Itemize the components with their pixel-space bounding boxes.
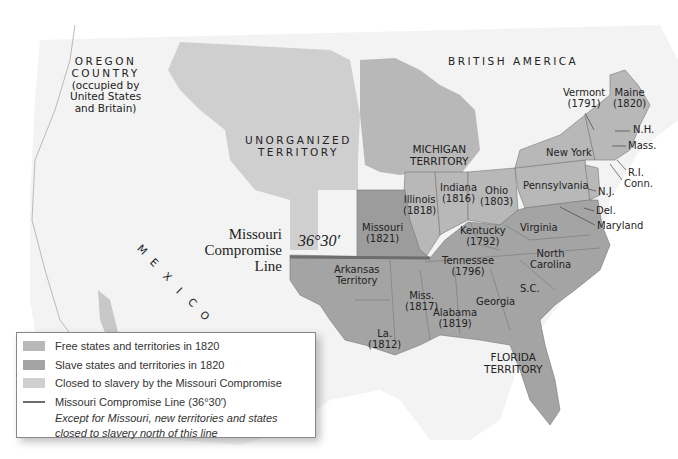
legend-label: Free states and territories in 1820 [55,340,219,352]
line-swatch-icon [23,401,45,403]
legend-note-line: closed to slavery north of this line [55,426,315,441]
map-legend: Free states and territories in 1820 Slav… [16,332,316,438]
swatch-free-icon [23,341,45,351]
legend-item-free: Free states and territories in 1820 [17,337,315,356]
swatch-slave-icon [23,360,45,370]
legend-item-line: Missouri Compromise Line (36°30′) [17,393,315,412]
legend-note-line: Except for Missouri, new territories and… [55,411,315,426]
legend-label: Slave states and territories in 1820 [55,359,224,371]
legend-note: Except for Missouri, new territories and… [17,411,315,441]
legend-item-closed: Closed to slavery by the Missouri Compro… [17,374,315,393]
legend-label: Closed to slavery by the Missouri Compro… [55,377,282,389]
swatch-closed-icon [23,378,45,388]
legend-label: Missouri Compromise Line (36°30′) [55,396,227,408]
legend-item-slave: Slave states and territories in 1820 [17,356,315,375]
